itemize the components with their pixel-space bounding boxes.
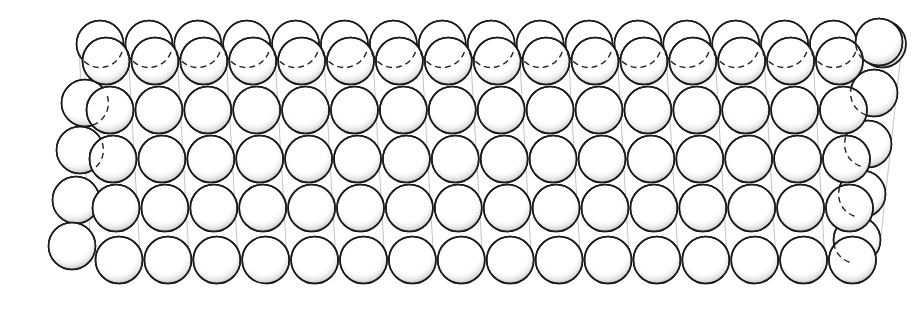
front-sphere — [435, 185, 482, 232]
front-sphere — [96, 237, 143, 284]
front-sphere — [138, 136, 185, 183]
front-sphere — [229, 38, 276, 85]
front-sphere — [380, 87, 427, 134]
front-sphere — [633, 237, 680, 284]
front-sphere — [180, 38, 227, 85]
front-sphere — [334, 136, 381, 183]
front-sphere — [767, 38, 814, 85]
front-sphere — [141, 185, 188, 232]
front-sphere — [337, 185, 384, 232]
front-sphere — [438, 237, 485, 284]
front-sphere — [816, 38, 863, 85]
front-sphere — [679, 185, 726, 232]
front-sphere — [288, 185, 335, 232]
front-sphere — [820, 87, 867, 134]
front-sphere — [386, 185, 433, 232]
front-sphere — [144, 237, 191, 284]
front-sphere — [572, 38, 619, 85]
front-sphere — [376, 38, 423, 85]
front-sphere — [291, 237, 338, 284]
front-sphere — [682, 237, 729, 284]
front-sphere — [533, 185, 580, 232]
front-sphere — [676, 136, 723, 183]
front-sphere — [536, 237, 583, 284]
front-sphere — [823, 136, 870, 183]
back-sphere-left — [53, 177, 100, 224]
front-sphere — [340, 237, 387, 284]
front-sphere — [193, 237, 240, 284]
front-sphere — [184, 87, 231, 134]
front-sphere — [285, 136, 332, 183]
front-sphere — [487, 237, 534, 284]
front-sphere — [780, 237, 827, 284]
front-sphere — [620, 38, 667, 85]
front-sphere — [728, 185, 775, 232]
sphere-array-drawing — [0, 0, 923, 316]
front-sphere — [718, 38, 765, 85]
front-sphere — [624, 87, 671, 134]
front-sphere — [582, 185, 629, 232]
front-sphere — [278, 38, 325, 85]
front-sphere — [527, 87, 574, 134]
front-sphere — [87, 87, 134, 134]
front-sphere — [630, 185, 677, 232]
front-sphere — [429, 87, 476, 134]
front-sphere — [190, 185, 237, 232]
front-grid-spheres — [83, 38, 877, 284]
front-sphere — [722, 87, 769, 134]
front-sphere — [282, 87, 329, 134]
front-sphere — [239, 185, 286, 232]
front-sphere — [327, 38, 374, 85]
front-sphere — [242, 237, 289, 284]
front-sphere — [829, 237, 876, 284]
front-sphere — [432, 136, 479, 183]
front-sphere — [585, 237, 632, 284]
front-sphere — [774, 136, 821, 183]
front-sphere — [826, 185, 873, 232]
front-sphere — [627, 136, 674, 183]
front-sphere — [523, 38, 570, 85]
front-sphere — [233, 87, 280, 134]
front-sphere — [530, 136, 577, 183]
front-sphere — [131, 38, 178, 85]
front-sphere — [93, 185, 140, 232]
front-sphere — [669, 38, 716, 85]
front-sphere — [83, 38, 130, 85]
front-sphere — [425, 38, 472, 85]
front-sphere — [725, 136, 772, 183]
front-sphere — [236, 136, 283, 183]
front-sphere — [383, 136, 430, 183]
front-sphere — [474, 38, 521, 85]
front-sphere — [478, 87, 525, 134]
front-sphere — [771, 87, 818, 134]
sphere-packing-diagram — [0, 0, 923, 316]
front-sphere — [777, 185, 824, 232]
front-sphere — [331, 87, 378, 134]
back-sphere-left — [49, 223, 96, 270]
front-sphere — [389, 237, 436, 284]
front-sphere — [731, 237, 778, 284]
front-sphere — [576, 87, 623, 134]
front-sphere — [484, 185, 531, 232]
front-sphere — [673, 87, 720, 134]
front-sphere — [90, 136, 137, 183]
front-sphere — [135, 87, 182, 134]
front-sphere — [579, 136, 626, 183]
front-sphere — [481, 136, 528, 183]
front-sphere — [187, 136, 234, 183]
